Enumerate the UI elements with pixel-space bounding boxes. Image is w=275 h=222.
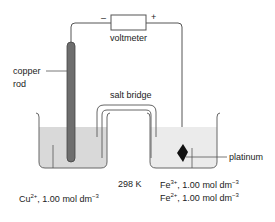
voltmeter-label: voltmeter	[110, 33, 147, 43]
fe2-conc: , 1.00 mol dm	[177, 193, 232, 203]
left-solution-label: Cu2+, 1.00 mol dm−3	[19, 193, 99, 204]
fe2-ion: Fe	[160, 193, 171, 203]
copper-rod	[67, 42, 75, 162]
cu-conc-exp: −3	[92, 193, 100, 199]
copper-rod-label-line2: rod	[13, 79, 26, 89]
salt-bridge-label: salt bridge	[110, 90, 152, 100]
fe3-ion: Fe	[160, 180, 171, 190]
salt-bridge-inner	[102, 110, 151, 158]
voltmeter-negative-terminal: –	[101, 13, 106, 23]
right-solution-label-fe2: Fe2+, 1.00 mol dm−3	[160, 192, 239, 203]
copper-rod-label-line1: copper	[13, 66, 41, 76]
cu-ion: Cu	[19, 194, 31, 204]
cu-conc: , 1.00 mol dm	[37, 194, 92, 204]
wire-left	[71, 23, 111, 47]
electrochemical-cell-diagram: – + voltmeter copper rod salt bridge pla…	[0, 0, 275, 222]
temperature-label: 298 K	[118, 179, 142, 189]
right-solution-label-fe3: Fe3+, 1.00 mol dm−3	[160, 179, 239, 190]
platinum-label: platinum	[229, 152, 263, 162]
voltmeter-positive-terminal: +	[151, 12, 156, 22]
fe2-conc-exp: −3	[232, 192, 240, 198]
voltmeter-box	[111, 15, 146, 30]
fe3-conc-exp: −3	[232, 179, 240, 185]
fe3-conc: , 1.00 mol dm	[177, 180, 232, 190]
